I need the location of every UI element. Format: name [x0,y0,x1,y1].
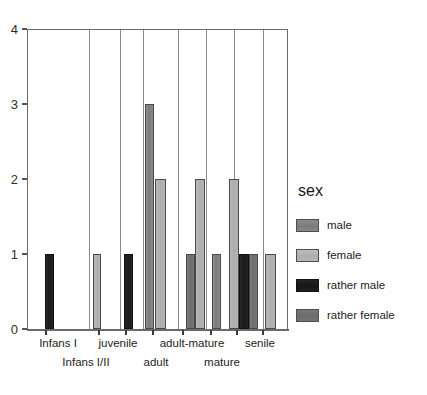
bar [239,254,249,329]
panel-divider [120,30,121,330]
bar [124,254,133,329]
x-axis-tick [98,330,100,335]
x-axis-tick [125,330,127,335]
legend-item-list: malefemalerather malerather female [296,219,424,322]
x-axis-label: Infans I [39,337,77,349]
bar [45,254,54,329]
clipped-header-label: · · · · · · · · · [118,0,202,1]
legend-swatch-male [296,219,319,232]
x-axis-tick [262,330,264,335]
x-axis-tick [182,330,184,335]
x-axis-label: juvenile [99,337,138,349]
legend-item[interactable]: male [296,219,424,232]
bar [265,254,276,329]
x-axis-label: senile [245,337,275,349]
panel-divider [206,30,207,330]
legend-title: sex [298,183,424,199]
x-axis-tick [152,330,154,335]
y-axis-label: 1 [4,248,18,261]
x-axis-label: adult [144,356,169,368]
legend-item-label: female [327,250,362,262]
x-axis-label: Infans I/II [62,356,109,368]
legend-swatch-rather-female [296,309,319,322]
bar [93,254,101,329]
x-axis-tick [236,330,238,335]
y-axis-label: 2 [4,173,18,186]
y-axis-label: 3 [4,98,18,111]
bar [195,179,205,329]
x-axis-label: adult-mature [160,337,225,349]
legend-item-label: rather male [327,280,385,292]
panel-divider [143,30,144,330]
legend-item[interactable]: female [296,249,424,262]
legend-item-label: rather female [327,310,395,322]
legend-swatch-female [296,249,319,262]
panel-divider [89,30,90,330]
panel-divider [178,30,179,330]
bar [155,179,166,329]
y-axis-label: 0 [4,323,18,336]
x-axis-tick [45,330,47,335]
bar [212,254,221,329]
bar [145,104,154,329]
legend-swatch-rather-male [296,279,319,292]
legend-item-label: male [327,220,352,232]
x-axis-tick [210,330,212,335]
panel-divider [263,30,264,330]
legend: sex malefemalerather malerather female [296,183,424,339]
legend-item[interactable]: rather male [296,279,424,292]
bar [186,254,195,329]
chart-canvas: · · · · · · · · · 01234 Infans Ijuvenile… [0,0,427,395]
x-axis-label: mature [204,356,240,368]
y-axis-label: 4 [4,23,18,36]
bar [229,179,239,329]
bar [249,254,258,329]
plot-area [27,29,288,329]
x-axis-line [27,329,289,331]
clipped-header-text: · · · · · · · · · [0,0,427,12]
legend-item[interactable]: rather female [296,309,424,322]
